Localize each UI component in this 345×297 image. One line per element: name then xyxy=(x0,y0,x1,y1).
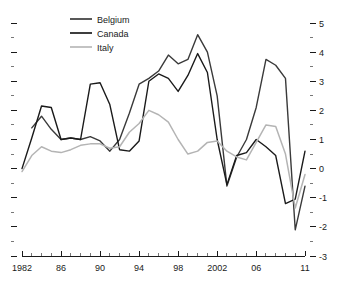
series-group xyxy=(22,35,305,230)
y-tick-label: -3 xyxy=(319,252,327,262)
y-tick-label: 0 xyxy=(319,164,324,174)
chart-legend: BelgiumCanadaItaly xyxy=(70,15,130,53)
series-line-italy xyxy=(22,110,305,208)
legend-label-italy[interactable]: Italy xyxy=(97,43,114,53)
x-tick-label: 2002 xyxy=(207,263,227,273)
legend-label-belgium[interactable]: Belgium xyxy=(97,15,130,25)
legend-label-canada[interactable]: Canada xyxy=(97,29,129,39)
y-tick-label: 1 xyxy=(319,135,324,145)
x-tick-label: 06 xyxy=(251,263,261,273)
y-tick-label: -2 xyxy=(319,222,327,232)
x-tick-label: 86 xyxy=(56,263,66,273)
x-tick-label: 90 xyxy=(95,263,105,273)
x-tick-label: 94 xyxy=(134,263,144,273)
y-tick-label: 4 xyxy=(319,48,324,58)
y-axis-right: 543210-1-2-3 xyxy=(310,19,327,262)
y-tick-label: -1 xyxy=(319,193,327,203)
series-line-belgium xyxy=(32,35,305,230)
x-tick-label: 11 xyxy=(300,263,309,273)
line-chart: 19828690949820020611 543210-1-2-3 Belgiu… xyxy=(0,0,345,297)
chart-canvas: 19828690949820020611 543210-1-2-3 Belgiu… xyxy=(0,0,345,297)
y-axis-left xyxy=(11,23,17,256)
y-tick-label: 5 xyxy=(319,19,324,29)
y-tick-label: 3 xyxy=(319,77,324,87)
x-tick-label: 1982 xyxy=(12,263,32,273)
x-tick-label: 98 xyxy=(173,263,183,273)
y-tick-label: 2 xyxy=(319,106,324,116)
x-axis: 19828690949820020611 xyxy=(12,251,310,273)
